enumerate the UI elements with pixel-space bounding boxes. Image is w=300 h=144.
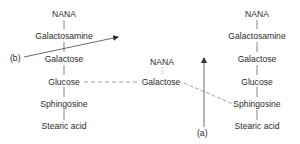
- left-stearic-acid: Stearic acid: [42, 121, 87, 131]
- left-glucose: Glucose: [48, 77, 80, 87]
- label-b: (b): [10, 53, 21, 63]
- dashed-link-galactose-sphingosine: [184, 83, 233, 104]
- right-nana: NANA: [245, 9, 269, 19]
- right-galactose: Galactose: [238, 54, 277, 64]
- right-sphingosine: Sphingosine: [233, 99, 280, 109]
- right-glucose: Glucose: [241, 77, 273, 87]
- middle-galactose: Galactose: [142, 77, 181, 87]
- right-stearic-acid: Stearic acid: [235, 121, 280, 131]
- middle-nana: NANA: [150, 57, 174, 67]
- right-galactosamine: Galactosamine: [228, 31, 285, 41]
- label-a: (a): [197, 128, 208, 138]
- left-galactosamine: Galactosamine: [35, 31, 92, 41]
- left-nana: NANA: [52, 9, 76, 19]
- left-galactose: Galactose: [45, 54, 84, 64]
- left-sphingosine: Sphingosine: [40, 99, 87, 109]
